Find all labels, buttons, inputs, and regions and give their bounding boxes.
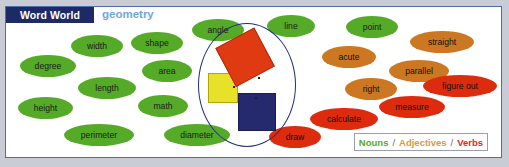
word-chip-height[interactable]: height [18, 97, 73, 119]
vertex-marker-b [255, 97, 257, 99]
legend-verbs: Verbs [457, 137, 483, 148]
pythagorean-theorem-figure [192, 21, 304, 149]
vertex-marker-a [233, 86, 235, 88]
word-chip-right[interactable]: right [345, 78, 397, 100]
legend-nouns: Nouns [359, 137, 389, 148]
word-chip-acute[interactable]: acute [322, 46, 376, 68]
subject-label: geometry [102, 8, 154, 20]
word-world-panel: Word World geometry widthshapedegreearea… [5, 6, 502, 158]
word-chip-width[interactable]: width [71, 35, 123, 57]
legend: Nouns / Adjectives / Verbs [354, 133, 488, 151]
word-chip-calculate[interactable]: calculate [310, 108, 378, 130]
page-title: Word World [6, 7, 94, 23]
navy-square [238, 93, 276, 131]
word-chip-shape[interactable]: shape [131, 32, 183, 54]
word-chip-point[interactable]: point [346, 16, 398, 38]
word-chip-degree[interactable]: degree [20, 55, 76, 77]
word-chip-measure[interactable]: measure [379, 96, 445, 118]
word-chip-perimeter[interactable]: perimeter [64, 124, 134, 146]
word-chip-straight[interactable]: straight [410, 31, 474, 53]
word-chip-math[interactable]: math [138, 95, 188, 117]
triangle-annotation [234, 83, 260, 90]
word-chip-area[interactable]: area [142, 60, 192, 82]
word-chip-figure-out[interactable]: figure out [423, 75, 497, 97]
word-chip-length[interactable]: length [78, 77, 136, 99]
legend-separator-2: / [451, 137, 454, 148]
legend-adjectives: Adjectives [399, 137, 447, 148]
legend-separator-1: / [392, 137, 395, 148]
vertex-marker-c [258, 77, 260, 79]
